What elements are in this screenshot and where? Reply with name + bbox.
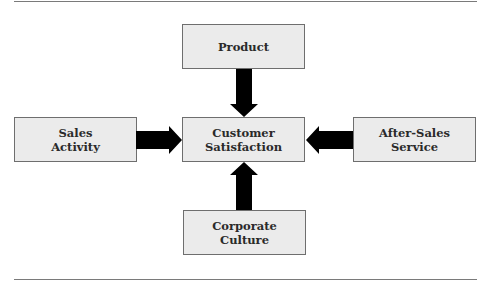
arrow-left-icon — [306, 126, 353, 154]
arrows-layer — [0, 0, 487, 286]
arrow-right-icon — [136, 126, 182, 154]
arrow-down-icon — [230, 69, 258, 117]
arrow-up-icon — [230, 162, 258, 210]
bottom-rule — [14, 279, 477, 280]
